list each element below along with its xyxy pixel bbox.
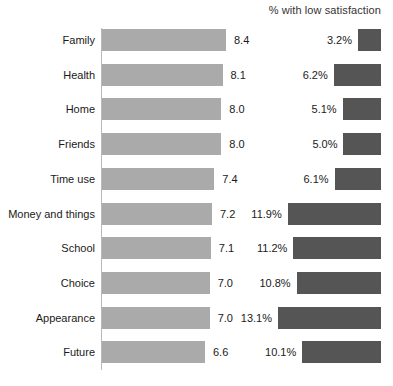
panel-title-low-satisfaction: % with low satisfaction [269, 4, 381, 16]
satisfaction-bar [102, 237, 211, 259]
chart-row: School7.111.2% [0, 237, 393, 259]
low-satisfaction-bar [358, 29, 381, 51]
category-label: School [0, 237, 95, 259]
chart-canvas: % with low satisfaction Family8.43.2%Hea… [0, 0, 393, 386]
category-label: Family [0, 29, 95, 51]
low-satisfaction-percent-label: 5.0% [289, 133, 337, 155]
chart-row: Money and things7.211.9% [0, 203, 393, 225]
low-satisfaction-percent-label: 10.1% [248, 341, 296, 363]
low-satisfaction-bar [334, 64, 381, 86]
chart-row: Friends8.05.0% [0, 133, 393, 155]
category-label: Choice [0, 272, 95, 294]
low-satisfaction-percent-label: 13.1% [224, 307, 272, 329]
low-satisfaction-bar [278, 307, 381, 329]
low-satisfaction-percent-label: 11.9% [234, 203, 282, 225]
low-satisfaction-bar [335, 168, 381, 190]
satisfaction-bar [102, 98, 221, 120]
category-label: Money and things [0, 203, 95, 225]
low-satisfaction-bar [343, 98, 381, 120]
category-label: Future [0, 341, 95, 363]
satisfaction-value-label: 7.1 [219, 237, 234, 259]
category-label: Home [0, 98, 95, 120]
chart-row: Appearance7.013.1% [0, 307, 393, 329]
low-satisfaction-percent-label: 11.2% [239, 237, 287, 259]
satisfaction-bar [102, 29, 226, 51]
chart-row: Home8.05.1% [0, 98, 393, 120]
satisfaction-value-label: 8.1 [231, 64, 246, 86]
satisfaction-bar [102, 64, 223, 86]
low-satisfaction-bar [288, 203, 381, 225]
category-label: Friends [0, 133, 95, 155]
low-satisfaction-percent-label: 3.2% [304, 29, 352, 51]
chart-row: Choice7.010.8% [0, 272, 393, 294]
chart-row: Health8.16.2% [0, 64, 393, 86]
category-label: Time use [0, 168, 95, 190]
satisfaction-value-label: 7.4 [222, 168, 237, 190]
satisfaction-value-label: 6.6 [213, 341, 228, 363]
satisfaction-bar [102, 341, 205, 363]
low-satisfaction-bar [302, 341, 381, 363]
satisfaction-value-label: 8.0 [229, 98, 244, 120]
satisfaction-bar [102, 133, 221, 155]
low-satisfaction-bar [343, 133, 381, 155]
satisfaction-bar [102, 203, 212, 225]
low-satisfaction-percent-label: 10.8% [243, 272, 291, 294]
satisfaction-bar [102, 272, 210, 294]
chart-row: Future6.610.1% [0, 341, 393, 363]
low-satisfaction-bar [297, 272, 381, 294]
category-label: Health [0, 64, 95, 86]
low-satisfaction-bar [293, 237, 381, 259]
chart-row: Family8.43.2% [0, 29, 393, 51]
satisfaction-value-label: 8.4 [234, 29, 249, 51]
satisfaction-value-label: 7.0 [218, 272, 233, 294]
satisfaction-bar [102, 168, 214, 190]
low-satisfaction-percent-label: 5.1% [289, 98, 337, 120]
satisfaction-value-label: 8.0 [229, 133, 244, 155]
low-satisfaction-percent-label: 6.2% [280, 64, 328, 86]
category-label: Appearance [0, 307, 95, 329]
satisfaction-bar [102, 307, 210, 329]
low-satisfaction-percent-label: 6.1% [281, 168, 329, 190]
chart-row: Time use7.46.1% [0, 168, 393, 190]
